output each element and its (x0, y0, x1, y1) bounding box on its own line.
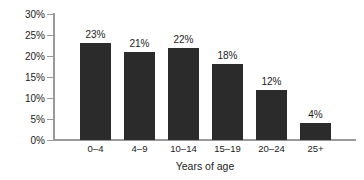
y-tick-label: 5% (3, 114, 45, 125)
bar (124, 52, 155, 140)
bar (212, 64, 243, 140)
x-axis-title-text: Years of age (130, 160, 235, 172)
y-axis-line (53, 13, 55, 141)
x-tick-label: 0–4 (72, 143, 119, 154)
x-tick-label: 10–14 (160, 143, 207, 154)
bar-chart: 30% 25% 20% 15% 10% 5% 0% 23% 21% 22% 18… (0, 0, 364, 180)
x-tick-label: 25+ (292, 143, 339, 154)
y-tick-label: 15% (3, 72, 45, 83)
x-tick-label: 15–19 (204, 143, 251, 154)
y-tick-label: 30% (3, 9, 45, 20)
bar (168, 48, 199, 140)
bar-value-label: 22% (160, 34, 207, 45)
bar (80, 43, 111, 140)
bar-value-label: 21% (116, 38, 163, 49)
x-axis-title: Years of age (0, 160, 364, 172)
y-tick-label: 0% (3, 135, 45, 146)
y-tick-label: 20% (3, 51, 45, 62)
bar-value-label: 4% (292, 109, 339, 120)
x-tick-label: 20–24 (248, 143, 295, 154)
y-tick-label: 25% (3, 30, 45, 41)
bar-value-label: 12% (248, 76, 295, 87)
bar-value-label: 23% (72, 29, 119, 40)
bar-value-label: 18% (204, 50, 251, 61)
plot-area: 30% 25% 20% 15% 10% 5% 0% 23% 21% 22% 18… (0, 0, 364, 180)
x-tick-label: 4–9 (116, 143, 163, 154)
y-tick-label: 10% (3, 93, 45, 104)
bar (300, 123, 331, 140)
bar (256, 90, 287, 140)
